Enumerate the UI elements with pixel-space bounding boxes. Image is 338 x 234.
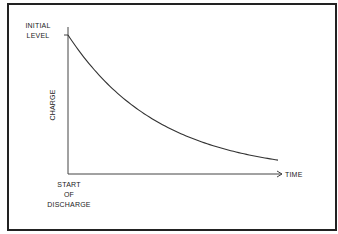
origin-label-line1: START xyxy=(57,181,81,188)
discharge-diagram: INITIAL LEVEL CHARGE TIME START OF DISCH… xyxy=(0,0,338,234)
origin-label-line2: OF xyxy=(64,191,74,198)
initial-label-line1: INITIAL xyxy=(25,22,50,29)
initial-label-line2: LEVEL xyxy=(27,32,50,39)
decay-curve xyxy=(68,35,278,160)
y-axis-label: CHARGE xyxy=(49,89,56,120)
origin-label-line3: DISCHARGE xyxy=(47,201,91,208)
x-axis-label: TIME xyxy=(285,171,303,178)
